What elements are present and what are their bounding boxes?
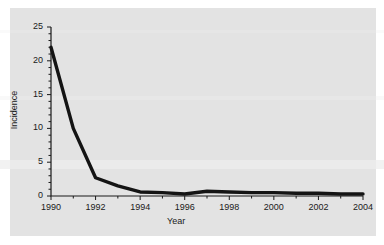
x-tick-label: 2002 [298,203,338,212]
x-tick-label: 1992 [76,203,116,212]
x-axis-title: Year [167,216,185,226]
x-tick-label: 1996 [165,203,205,212]
x-tick-label: 2004 [343,203,383,212]
axes [51,27,363,196]
y-tick-label: 20 [21,56,43,65]
y-tick-label: 25 [21,22,43,31]
y-tick-label: 0 [21,191,43,200]
y-tick-label: 10 [21,123,43,132]
y-tick-label: 5 [21,157,43,166]
chart-figure: 0510152025 19901992199419961998200020022… [0,0,384,245]
x-tick-label: 1998 [209,203,249,212]
y-tick-label: 15 [21,90,43,99]
x-tick-label: 2000 [254,203,294,212]
x-tick-label: 1994 [120,203,160,212]
x-tick-label: 1990 [31,203,71,212]
incidence-line [51,47,363,194]
y-axis-title: Incidence [9,80,19,140]
